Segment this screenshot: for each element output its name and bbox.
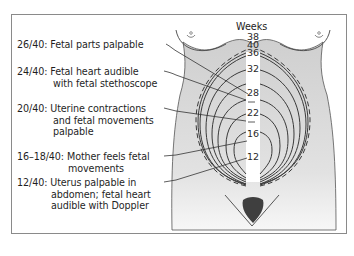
week-marker-36: 36 — [244, 48, 262, 58]
annotation-20-weeks: 20/40: Uterine contractions and fetal mo… — [17, 103, 154, 138]
week-marker-12: 12 — [244, 152, 262, 162]
annotation-26-weeks: 26/40: Fetal parts palpable — [17, 39, 143, 51]
week-marker-28: 28 — [244, 88, 262, 98]
week-marker-32: 32 — [244, 64, 262, 74]
annotation-12-weeks: 12/40: Uterus palpable in abdomen; fetal… — [17, 177, 151, 212]
annotation-16-18-weeks: 16–18/40: Mother feels fetal movements — [17, 151, 150, 174]
week-marker-22: 22 — [244, 108, 262, 118]
week-marker-16: 16 — [244, 129, 262, 139]
annotation-24-weeks: 24/40: Fetal heart audible with fetal st… — [17, 66, 157, 89]
